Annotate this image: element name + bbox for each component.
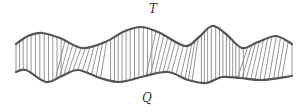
hatch-line [260,38,268,80]
hatch-line [73,48,81,71]
hatch-line [188,41,195,80]
ribbon-diagram: T Q [0,0,308,112]
hatch-line [167,42,175,72]
hatch-line [155,35,164,74]
hatch-line [251,41,260,79]
label-t: T [149,3,157,15]
hatch-line [192,38,198,81]
hatch-line [278,39,285,78]
hatch-line [159,37,168,72]
label-q: Q [142,92,152,104]
hatch-line [269,36,276,79]
hatch-line [185,44,192,79]
ribbon-svg [0,0,308,112]
hatch-line [255,40,264,80]
hatch-line [68,47,77,73]
hatch-line [172,44,180,73]
hatch-line [264,37,272,80]
hatch-line [78,48,86,70]
hatch-line [163,40,171,72]
